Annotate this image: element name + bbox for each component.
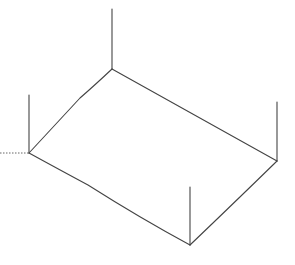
plate-edge-left-bottom <box>29 153 190 245</box>
plate-edge-bottom-right <box>190 161 277 245</box>
plate-edge-top-left <box>29 69 112 153</box>
isometric-plate-diagram <box>0 0 295 265</box>
plate-edge-right-top <box>112 69 277 161</box>
